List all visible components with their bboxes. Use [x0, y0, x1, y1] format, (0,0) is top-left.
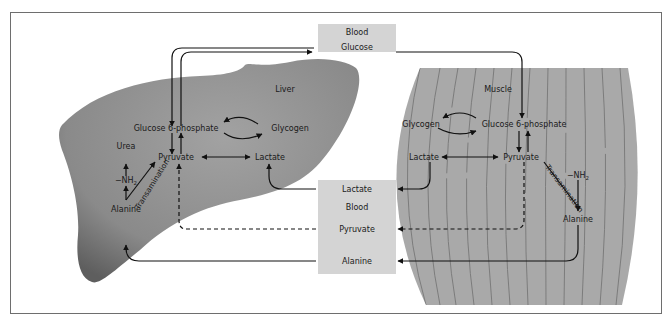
muscle-lactate-label: Lactate: [409, 153, 439, 162]
blood-bottom-title: Blood: [346, 203, 369, 212]
liver-lactate-label: Lactate: [255, 153, 285, 162]
blood-alanine-label: Alanine: [342, 257, 372, 266]
muscle-tissue: [396, 68, 637, 305]
blood-glucose-label: Glucose: [341, 43, 373, 52]
muscle-alanine-label: Alanine: [563, 215, 593, 224]
cycle-diagram: Blood Glucose Lactate Blood Pyruvate Ala…: [0, 0, 672, 326]
liver-g6p-label: Glucose 6-phosphate: [134, 124, 219, 133]
blood-lactate-label: Lactate: [342, 185, 372, 194]
muscle-g6p-label: Glucose 6-phosphate: [482, 120, 567, 129]
liver-glycogen-label: Glycogen: [271, 124, 309, 133]
muscle-glycogen-label: Glycogen: [402, 120, 440, 129]
blood-pyruvate-label: Pyruvate: [339, 225, 375, 234]
liver-alanine-label: Alanine: [111, 205, 141, 214]
liver-urea-label: Urea: [117, 142, 136, 151]
muscle-label: Muscle: [484, 85, 512, 94]
blood-top-title: Blood: [346, 28, 369, 37]
liver-label: Liver: [275, 85, 295, 94]
muscle-pyruvate-label: Pyruvate: [503, 153, 539, 162]
